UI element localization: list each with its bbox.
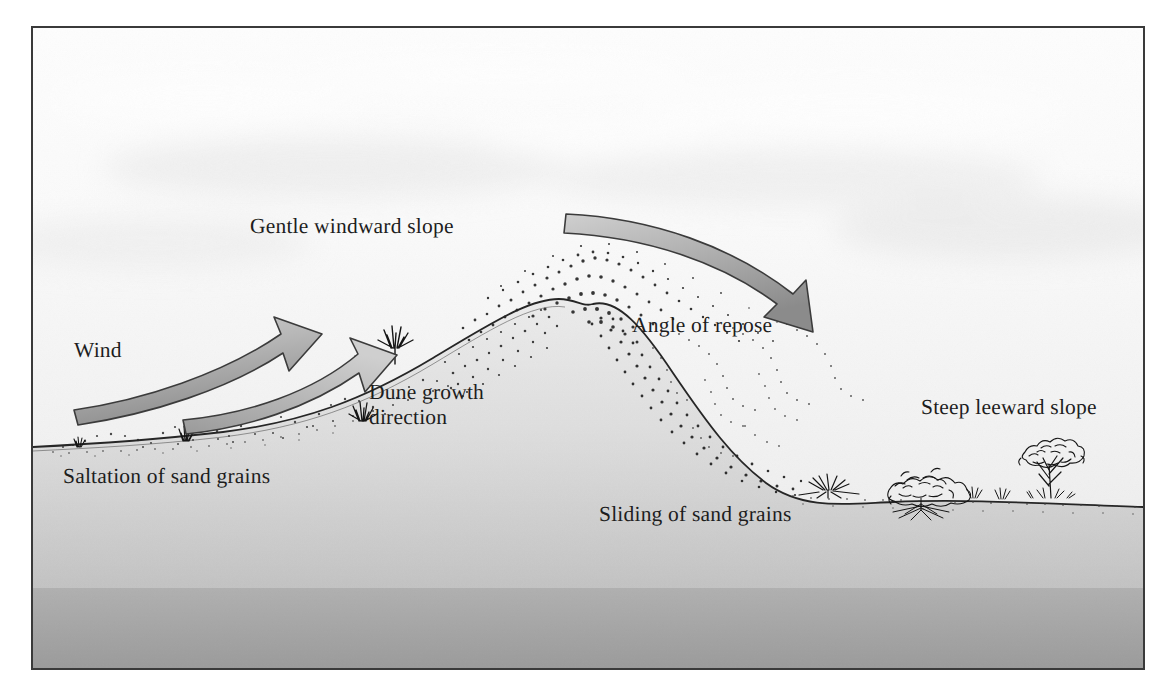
label-wind: Wind: [74, 338, 122, 363]
figure-stage: Gentle windward slope Wind Dune growth d…: [0, 0, 1171, 696]
figure-frame: Gentle windward slope Wind Dune growth d…: [31, 26, 1145, 670]
label-dune-growth-direction: Dune growth direction: [369, 380, 484, 431]
label-saltation-of-sand-grains: Saltation of sand grains: [63, 464, 270, 489]
label-angle-of-repose: Angle of repose: [632, 313, 772, 338]
label-gentle-windward-slope: Gentle windward slope: [250, 214, 454, 239]
dune-cross-section-illustration: [33, 28, 1143, 668]
paper-grain-texture: [33, 28, 1143, 668]
label-steep-leeward-slope: Steep leeward slope: [921, 395, 1097, 420]
label-sliding-of-sand-grains: Sliding of sand grains: [599, 502, 792, 527]
